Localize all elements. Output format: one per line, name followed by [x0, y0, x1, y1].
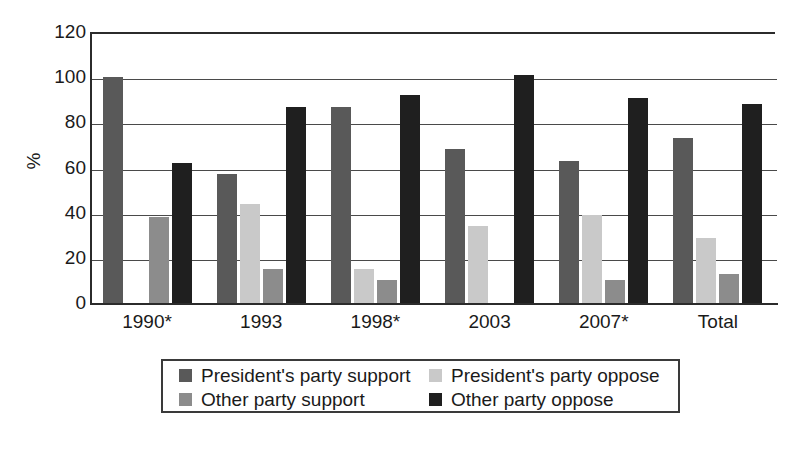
bar: [445, 149, 465, 303]
legend-swatch: [179, 393, 192, 406]
legend-row-2: Other party supportOther party oppose: [163, 387, 678, 412]
y-tick-label: 120: [34, 22, 86, 41]
y-tick-label: 40: [34, 203, 86, 222]
x-tick-label: 2003: [430, 311, 550, 333]
bar: [559, 161, 579, 303]
legend-swatch: [429, 393, 442, 406]
bar: [696, 238, 716, 303]
y-axis-tick-labels: 120100806040200: [28, 0, 86, 450]
legend-label: President's party support: [201, 365, 411, 386]
legend-label: Other party support: [201, 389, 365, 410]
y-tick-label: 100: [34, 67, 86, 86]
bar: [582, 215, 602, 303]
legend-swatch: [429, 369, 442, 382]
y-tick-label: 0: [34, 293, 86, 312]
bar: [628, 98, 648, 304]
x-tick-label: 1993: [201, 311, 321, 333]
legend-row-1: President's party supportPresident's par…: [163, 363, 678, 388]
bars-layer: [90, 32, 775, 303]
bar: [240, 204, 260, 303]
bar: [377, 280, 397, 303]
y-tick-label: 60: [34, 158, 86, 177]
bar: [286, 107, 306, 303]
legend-swatch: [179, 369, 192, 382]
x-tick-label: Total: [658, 311, 778, 333]
chart-legend: President's party supportPresident's par…: [161, 359, 680, 413]
bar: [263, 269, 283, 303]
x-tick-label: 2007*: [544, 311, 664, 333]
legend-entry: Other party support: [179, 387, 365, 412]
bar: [719, 274, 739, 303]
bar: [331, 107, 351, 303]
bar: [217, 174, 237, 303]
bar: [172, 163, 192, 303]
bar: [400, 95, 420, 303]
bar: [149, 217, 169, 303]
y-tick-label: 80: [34, 112, 86, 131]
x-tick-label: 1990*: [87, 311, 207, 333]
bar: [103, 77, 123, 303]
legend-entry: Other party oppose: [429, 387, 614, 412]
bar: [742, 104, 762, 303]
bar: [354, 269, 374, 303]
x-axis-line: [90, 303, 778, 305]
legend-entry: President's party oppose: [429, 363, 660, 388]
bar: [605, 280, 625, 303]
x-tick-label: 1998*: [315, 311, 435, 333]
legend-label: Other party oppose: [451, 389, 614, 410]
bar: [468, 226, 488, 303]
legend-label: President's party oppose: [451, 365, 660, 386]
bar: [673, 138, 693, 303]
bar: [514, 75, 534, 303]
chart-figure: % 120100806040200 1990*19931998*20032007…: [0, 0, 798, 450]
y-tick-label: 20: [34, 248, 86, 267]
legend-entry: President's party support: [179, 363, 411, 388]
